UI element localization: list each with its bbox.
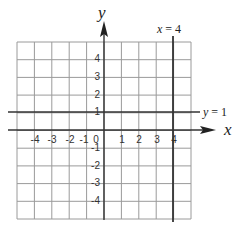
y-tick-label: -3 (91, 177, 100, 188)
coordinate-plane: y x x = 4 y = 1 -4-3-2-101234 4321-1-2-3… (0, 0, 242, 226)
y-tick-label: 3 (94, 71, 100, 82)
y-tick-label: -4 (91, 195, 100, 206)
x-tick-label: 3 (154, 134, 160, 145)
y-tick-label: 1 (94, 106, 100, 117)
x-tick-label: 2 (136, 134, 142, 145)
x-tick-label: -1 (80, 134, 89, 145)
y-axis-label: y (96, 3, 106, 22)
x-tick-label: -4 (31, 134, 40, 145)
y-tick-label: 2 (94, 89, 100, 100)
y-tick-label: -1 (91, 142, 100, 153)
vline-label: x = 4 (156, 22, 181, 36)
x-tick-label: -3 (48, 134, 57, 145)
x-axis-label: x (223, 120, 232, 139)
x-tick-label: 4 (171, 134, 177, 145)
y-tick-label: -2 (91, 160, 100, 171)
x-tick-label: -2 (66, 134, 75, 145)
y-tick-label: 4 (94, 53, 100, 64)
x-tick-label: 1 (119, 134, 125, 145)
hline-label: y = 1 (202, 105, 227, 119)
